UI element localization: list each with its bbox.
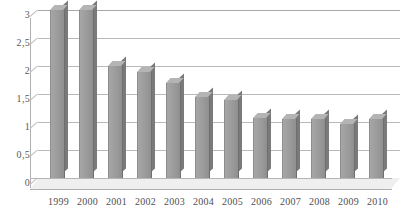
bar: [340, 124, 353, 178]
x-axis-tick-label: 2003: [164, 196, 185, 208]
x-axis-tick-label: 2009: [338, 196, 359, 208]
bar-front-face: [79, 10, 94, 178]
bar: [50, 10, 63, 178]
x-axis: 1999200020012002200320042005200620072008…: [30, 196, 400, 218]
y-axis-tick-label: 1,5: [2, 94, 30, 104]
x-axis-tick-label: 2005: [222, 196, 243, 208]
bar-front-face: [195, 97, 210, 178]
bar-front-face: [282, 119, 297, 178]
y-axis-tick-label: 2: [2, 66, 30, 76]
x-axis-tick-label: 2002: [135, 196, 156, 208]
bar-front-face: [108, 66, 123, 178]
x-axis-tick-label: 2007: [280, 196, 301, 208]
x-axis-tick-label: 2008: [309, 196, 330, 208]
bar-front-face: [340, 124, 355, 178]
bar: [282, 119, 295, 178]
y-axis-tick-label: 1: [2, 122, 30, 132]
x-axis-tick-label: 2010: [367, 196, 388, 208]
bar-front-face: [253, 118, 268, 178]
y-axis-tick-label: 3: [2, 10, 30, 20]
bar-front-face: [369, 119, 384, 178]
bar: [79, 10, 92, 178]
y-axis: 32,521,510,50: [0, 0, 30, 224]
plot-area: [30, 10, 400, 190]
y-axis-tick-label: 0: [2, 178, 30, 188]
x-axis-tick-label: 2004: [193, 196, 214, 208]
bar-front-face: [50, 10, 65, 178]
bar: [224, 100, 237, 178]
bar: [137, 72, 150, 178]
x-axis-tick-label: 2001: [106, 196, 127, 208]
bar-chart: 32,521,510,50 19992000200120022003200420…: [0, 0, 412, 224]
y-axis-tick-label: 2,5: [2, 38, 30, 48]
bar: [253, 118, 266, 178]
y-axis-tick-label: 0,5: [2, 150, 30, 160]
bars: [30, 10, 400, 190]
bar: [311, 119, 324, 178]
bar-front-face: [224, 100, 239, 178]
x-axis-tick-label: 2006: [251, 196, 272, 208]
bar-front-face: [311, 119, 326, 178]
bar: [108, 66, 121, 178]
bar-front-face: [137, 72, 152, 178]
bar: [166, 83, 179, 178]
bar: [195, 97, 208, 178]
x-axis-tick-label: 1999: [48, 196, 69, 208]
bar-front-face: [166, 83, 181, 178]
x-axis-tick-label: 2000: [77, 196, 98, 208]
bar: [369, 119, 382, 178]
